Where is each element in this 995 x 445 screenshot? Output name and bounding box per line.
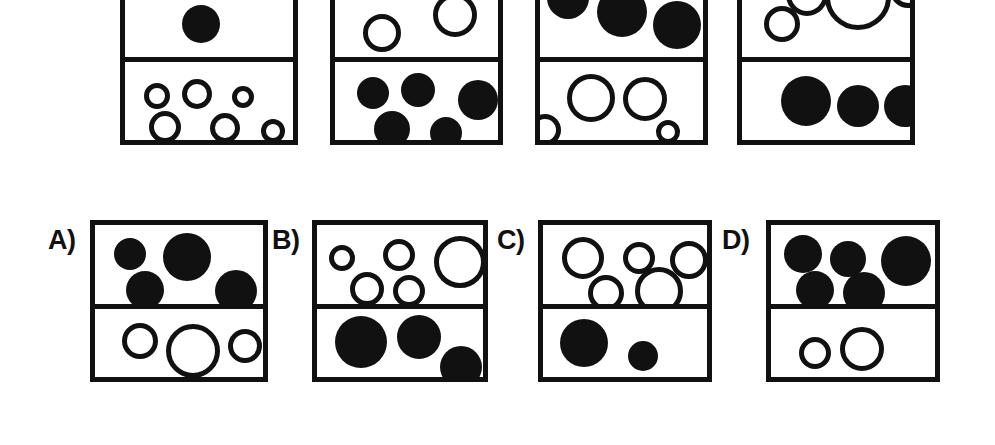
- top-box-3-filled-circle: [547, 0, 589, 19]
- top-box-3: [535, 0, 708, 145]
- top-box-1-unfilled-circle: [182, 79, 212, 109]
- option-c-label[interactable]: C): [497, 227, 525, 254]
- option-d-unfilled-circle: [840, 327, 884, 371]
- option-b-interior: [317, 225, 483, 377]
- option-c-filled-circle: [628, 341, 658, 371]
- option-d-filled-circle: [881, 236, 931, 286]
- option-a-filled-circle: [114, 238, 146, 270]
- option-b-unfilled-circle: [383, 239, 415, 271]
- option-b-label[interactable]: B): [272, 227, 300, 254]
- top-box-2-filled-circle: [374, 111, 410, 140]
- top-box-1-interior: [125, 0, 293, 140]
- option-b-unfilled-circle: [329, 245, 355, 271]
- top-box-2-filled-circle: [430, 117, 462, 140]
- top-box-4-filled-circle: [884, 85, 910, 127]
- option-d-filled-circle: [796, 271, 834, 304]
- option-d[interactable]: [766, 220, 940, 382]
- top-box-3-lower-compartment: [540, 62, 703, 140]
- top-box-4-lower-compartment: [742, 62, 910, 140]
- top-box-1: [120, 0, 298, 145]
- option-b[interactable]: [312, 220, 488, 382]
- option-b-unfilled-circle: [434, 236, 483, 288]
- option-b-filled-circle: [335, 316, 387, 368]
- top-box-2-filled-circle: [357, 77, 389, 109]
- top-box-2: [330, 0, 503, 145]
- option-d-filled-circle: [843, 272, 885, 304]
- option-a-unfilled-circle: [166, 324, 220, 377]
- option-a-unfilled-circle: [228, 329, 262, 363]
- option-d-filled-circle: [784, 235, 822, 273]
- option-c-interior: [543, 225, 707, 377]
- option-c-filled-circle: [560, 319, 608, 367]
- option-b-unfilled-circle: [393, 275, 425, 304]
- top-box-1-unfilled-circle: [232, 86, 254, 108]
- option-a-unfilled-circle: [122, 323, 158, 359]
- option-d-lower-compartment: [771, 309, 935, 377]
- option-a-label[interactable]: A): [48, 227, 76, 254]
- option-a-filled-circle: [163, 233, 211, 281]
- top-box-1-unfilled-circle: [144, 83, 170, 109]
- option-d-label[interactable]: D): [722, 227, 750, 254]
- option-d-unfilled-circle: [799, 337, 831, 369]
- top-box-3-unfilled-circle: [656, 120, 680, 140]
- top-box-2-unfilled-circle: [433, 0, 477, 37]
- option-c-unfilled-circle: [588, 275, 624, 304]
- figure-canvas: A)B)C)D): [0, 0, 995, 445]
- top-box-3-unfilled-circle: [623, 77, 667, 121]
- option-b-unfilled-circle: [350, 272, 384, 304]
- top-box-3-upper-compartment: [540, 0, 703, 57]
- option-a[interactable]: [90, 220, 268, 382]
- top-box-1-filled-circle: [182, 5, 220, 43]
- option-b-upper-compartment: [317, 225, 483, 304]
- option-b-filled-circle: [397, 315, 441, 359]
- top-box-3-filled-circle: [653, 1, 701, 49]
- top-box-1-lower-compartment: [125, 62, 293, 140]
- top-box-3-unfilled-circle: [567, 74, 615, 122]
- top-box-4-unfilled-circle: [890, 0, 910, 8]
- option-c-lower-compartment: [543, 309, 707, 377]
- top-box-4-interior: [742, 0, 910, 140]
- top-box-4-unfilled-circle: [825, 0, 891, 30]
- option-c[interactable]: [538, 220, 712, 382]
- option-a-filled-circle: [215, 270, 257, 304]
- top-box-4-unfilled-circle: [764, 6, 800, 42]
- option-d-upper-compartment: [771, 225, 935, 304]
- option-a-upper-compartment: [95, 225, 263, 304]
- top-box-1-upper-compartment: [125, 0, 293, 57]
- top-box-4-filled-circle: [837, 85, 879, 127]
- option-a-lower-compartment: [95, 309, 263, 377]
- option-a-interior: [95, 225, 263, 377]
- top-box-2-unfilled-circle: [363, 14, 401, 52]
- top-box-2-filled-circle: [401, 73, 435, 107]
- top-box-4-upper-compartment: [742, 0, 910, 57]
- top-box-2-interior: [335, 0, 498, 140]
- option-b-filled-circle: [440, 346, 482, 377]
- top-box-3-unfilled-circle: [540, 114, 561, 140]
- top-box-4-filled-circle: [781, 76, 831, 126]
- top-box-1-unfilled-circle: [149, 111, 181, 140]
- top-box-2-upper-compartment: [335, 0, 498, 57]
- top-box-1-unfilled-circle: [261, 119, 285, 140]
- option-a-filled-circle: [126, 271, 164, 304]
- top-box-4: [737, 0, 915, 145]
- top-box-2-lower-compartment: [335, 62, 498, 140]
- top-box-1-unfilled-circle: [210, 113, 240, 140]
- option-b-lower-compartment: [317, 309, 483, 377]
- top-box-2-filled-circle: [458, 80, 498, 120]
- option-c-unfilled-circle: [562, 237, 604, 279]
- top-box-3-interior: [540, 0, 703, 140]
- option-d-interior: [771, 225, 935, 377]
- option-c-upper-compartment: [543, 225, 707, 304]
- top-box-3-filled-circle: [597, 0, 647, 37]
